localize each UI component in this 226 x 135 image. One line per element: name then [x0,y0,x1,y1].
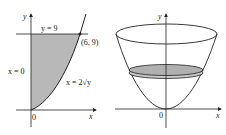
point-label: (6, 9) [81,38,99,47]
origin-label: 0 [159,111,163,120]
curve-label: x = 2√y [66,78,91,87]
figure: y x 0 y = 9 x = 0 x = 2√y (6, 9) y x 0 [0,0,226,135]
line-top-label: y = 9 [41,24,58,33]
x-axis-label: x [215,111,220,120]
point-6-9 [79,33,82,36]
x-axis-label: x [88,112,93,121]
y-axis-label: y [157,12,162,21]
shaded-region [31,34,80,110]
origin-label: 0 [32,113,36,122]
left-boundary-label: x = 0 [8,67,25,76]
y-axis-label: y [22,12,27,21]
right-graph: y x 0 [115,12,221,128]
left-graph: y x 0 y = 9 x = 0 x = 2√y (6, 9) [8,12,99,127]
top-rim-ellipse [116,24,217,44]
